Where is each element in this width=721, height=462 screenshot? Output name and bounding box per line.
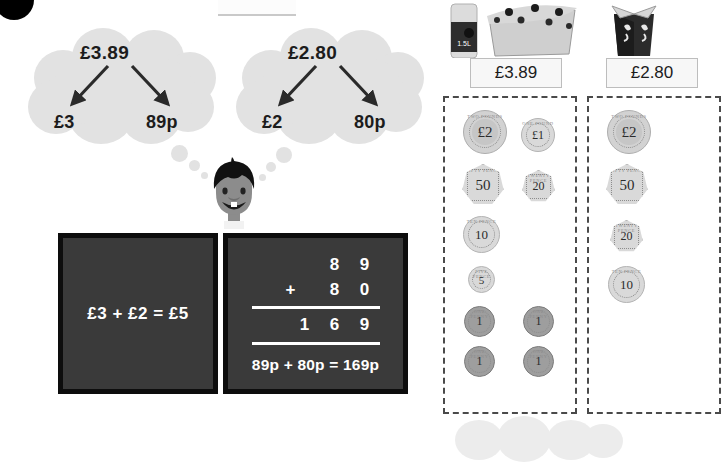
coin-1p: ONE PENNY 1 [523,306,554,337]
price-tag-1: £3.89 [470,58,562,88]
cloud-1-pounds: £3 [54,112,75,133]
hundreds-digit: 1 [290,313,320,338]
coin-value: 1 [477,354,483,369]
thought-dot [171,145,188,162]
coin-value: 1 [536,314,542,329]
coin-legend: FIFTY PENCE [607,168,647,173]
coin-1p: ONE PENNY 1 [523,346,554,377]
coin-value: 50 [620,177,635,194]
thought-dot [276,147,292,163]
coin-2-pound: TWO POUNDS £2 [463,110,507,154]
ones-digit: 0 [350,278,380,303]
coin-value: £2 [622,124,637,141]
coin-legend: TWO POUNDS [608,114,650,119]
pence-answer-panel: 8 9 + 8 0 1 6 9 89p + 80p = 169p [223,233,408,394]
thought-dot [189,160,200,171]
partition-cloud-1: £3.89 £3 89p [28,28,218,146]
thinking-boy [206,155,262,229]
tens-digit: 6 [320,313,350,338]
ones-digit: 9 [350,313,380,338]
pounds-answer-panel: £3 + £2 = £5 [58,233,218,394]
price-tag-2: £2.80 [606,58,698,88]
coin-value: 5 [479,274,485,286]
coin-value: 10 [475,227,488,243]
thought-dot [266,162,276,172]
coin-10p: TEN PENCE 10 [463,216,500,253]
coin-legend: ONE POUND [522,121,554,126]
cloud-1-total: £3.89 [80,42,129,64]
coin-value: £1 [532,128,544,143]
takeaway-box-photo [600,0,668,58]
coin-legend: TEN PENCE [609,269,644,274]
plus-operator: + [282,278,320,303]
coin-box-1: TWO POUNDS £2 ONE POUND £1 FIFTY PENCE 5… [443,96,577,414]
coin-1-pound: ONE POUND £1 [521,118,555,152]
coin-50p: FIFTY PENCE 50 [462,164,504,206]
coin-value: 20 [533,179,545,194]
partition-cloud-2: £2.80 £2 80p [236,28,426,146]
cloud-1-pence: 89p [146,112,178,133]
sum-rule-top [252,306,380,309]
coin-value: 1 [536,354,542,369]
top-cutoff-bar [218,0,296,16]
cloud-2-total: £2.80 [288,42,337,64]
bottle-size-label: 1.5L [457,40,471,47]
coin-value: 50 [476,177,491,194]
tens-digit: 8 [320,253,350,278]
ones-digit: 9 [350,253,380,278]
coin-value: 1 [477,314,483,329]
coin-1p: ONE PENNY 1 [464,306,495,337]
coin-1p: ONE PENNY 1 [464,346,495,377]
tens-digit: 8 [320,278,350,303]
coin-20p: TWENTY PENCE 20 [610,220,643,253]
pounds-equation: £3 + £2 = £5 [87,304,188,324]
answer-row: 1 6 9 [252,313,380,338]
coin-legend: TWO POUNDS [464,114,506,119]
coin-value: 10 [620,277,633,293]
question-number-badge [0,0,34,20]
drink-and-snack-photo: 1.5L [443,0,583,58]
cloud-2-pence: 80p [354,112,386,133]
coin-20p: TWENTY PENCE 20 [522,170,555,203]
coin-legend: TEN PENCE [464,219,499,224]
addend-row-1: 8 9 [252,253,380,278]
cloud-2-pounds: £2 [262,112,283,133]
pence-sentence: 89p + 80p = 169p [252,356,379,374]
coin-50p: FIFTY PENCE 50 [606,164,648,206]
coin-value: 20 [621,229,633,244]
coin-value: £2 [478,124,493,141]
coin-2-pound: TWO POUNDS £2 [607,110,651,154]
sum-rule-bottom [252,342,380,345]
bottom-cloud-decoration [455,414,625,444]
column-addition: 8 9 + 8 0 1 6 9 [252,253,380,349]
addend-row-2: + 8 0 [252,278,380,303]
coin-5p: FIVE PENCE 5 [468,266,495,293]
coin-10p: TEN PENCE 10 [608,266,645,303]
coin-box-2: TWO POUNDS £2 FIFTY PENCE 50 TWENTY PENC… [587,96,721,414]
coin-legend: FIFTY PENCE [463,168,503,173]
